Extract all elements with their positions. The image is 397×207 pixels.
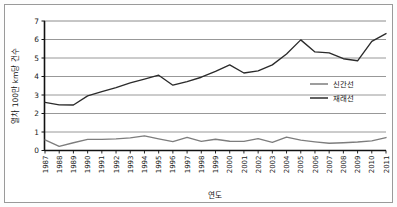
- gridlines: [45, 21, 386, 132]
- x-tick-label: 1997: [184, 156, 192, 174]
- x-tick-label: 1998: [198, 156, 206, 174]
- chart-screenshot: 01234567 1987198819891990199119921993199…: [0, 0, 397, 207]
- x-tick-label: 1990: [84, 156, 92, 174]
- y-tick-label: 2: [34, 109, 39, 118]
- x-tick-label: 2011: [383, 156, 391, 174]
- x-tick-label: 1991: [98, 156, 106, 174]
- x-tick-label: 1987: [42, 156, 50, 174]
- legend-label-신간선: 신간선: [333, 80, 354, 89]
- x-tick-label: 2004: [283, 155, 291, 173]
- y-tick-label: 7: [34, 17, 39, 26]
- x-tick-label: 2000: [226, 156, 234, 174]
- x-tick-label: 1988: [56, 156, 64, 174]
- y-axis-ticks: 01234567: [34, 17, 45, 156]
- x-tick-label: 1994: [141, 155, 149, 173]
- x-tick-label: 2005: [297, 156, 305, 174]
- y-tick-label: 5: [34, 54, 39, 63]
- line-chart-svg: 01234567 1987198819891990199119921993199…: [0, 0, 397, 207]
- x-tick-label: 2010: [368, 156, 376, 174]
- x-tick-label: 2001: [241, 156, 249, 174]
- x-axis-ticks: 1987198819891990199119921993199419951996…: [42, 151, 391, 174]
- x-tick-label: 1996: [169, 155, 177, 173]
- x-axis-title: 연도: [208, 191, 222, 200]
- y-tick-label: 3: [34, 91, 39, 100]
- x-tick-label: 2002: [255, 156, 263, 174]
- y-tick-label: 4: [34, 72, 39, 81]
- x-tick-label: 1999: [212, 156, 220, 174]
- x-tick-label: 1993: [127, 156, 135, 174]
- y-tick-label: 0: [34, 146, 39, 155]
- x-tick-label: 1995: [155, 156, 163, 174]
- series-line-신간선: [45, 136, 386, 147]
- x-tick-label: 1992: [113, 156, 121, 174]
- x-tick-label: 2007: [326, 156, 334, 174]
- series-lines: [45, 34, 386, 147]
- x-tick-label: 2003: [269, 156, 277, 174]
- x-tick-label: 1989: [70, 156, 78, 174]
- y-tick-label: 1: [34, 128, 39, 137]
- y-tick-label: 6: [34, 35, 39, 44]
- x-tick-label: 2008: [340, 156, 348, 174]
- chart-legend: 신간선재래선: [310, 80, 354, 103]
- x-tick-label: 2006: [312, 155, 320, 173]
- y-axis-title: 열차 100만 km당 건수: [10, 48, 20, 124]
- legend-label-재래선: 재래선: [333, 94, 354, 103]
- x-tick-label: 2009: [354, 156, 362, 174]
- chart-canvas: 01234567 1987198819891990199119921993199…: [0, 0, 397, 207]
